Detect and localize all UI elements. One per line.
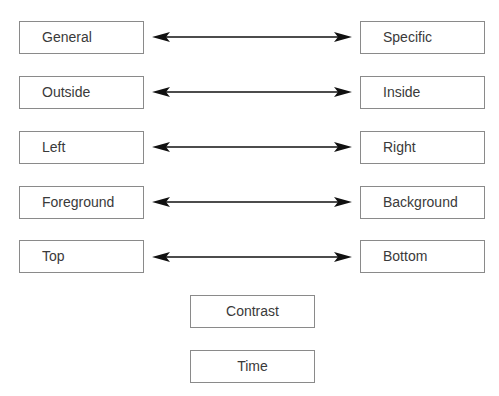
time-box: Time [190, 350, 315, 383]
right-box-right: Right [360, 131, 485, 164]
left-box-outside: Outside [19, 76, 144, 109]
right-box-background: Background [360, 186, 485, 219]
right-box-specific: Specific [360, 21, 485, 54]
double-arrow-icon [152, 85, 352, 99]
left-box-left: Left [19, 131, 144, 164]
double-arrow-icon [152, 30, 352, 44]
left-box-top: Top [19, 240, 144, 273]
left-box-general: General [19, 21, 144, 54]
double-arrow-icon [152, 250, 352, 264]
right-box-inside: Inside [360, 76, 485, 109]
contrast-box: Contrast [190, 295, 315, 328]
double-arrow-icon [152, 195, 352, 209]
double-arrow-icon [152, 140, 352, 154]
right-box-bottom: Bottom [360, 240, 485, 273]
left-box-foreground: Foreground [19, 186, 144, 219]
